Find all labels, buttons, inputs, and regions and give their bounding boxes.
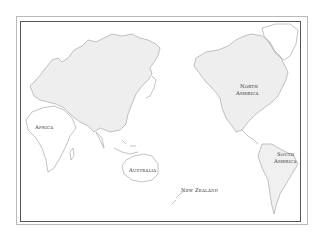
label-south-america-line2: America	[274, 158, 297, 164]
label-north-america-line1: North	[240, 83, 258, 89]
africa-landmass	[26, 106, 76, 172]
world-map	[0, 0, 324, 241]
label-australia: Australia	[129, 167, 156, 173]
label-north-america-line2: America	[236, 90, 259, 96]
madagascar	[70, 148, 74, 160]
label-africa: Africa	[35, 124, 53, 130]
indonesia	[114, 140, 138, 154]
south-asia	[96, 132, 104, 148]
central-america	[242, 130, 258, 144]
label-new-zealand: New Zealand	[181, 187, 218, 193]
eurasia-landmass	[30, 34, 160, 132]
label-south-america-line1: South	[277, 151, 294, 157]
